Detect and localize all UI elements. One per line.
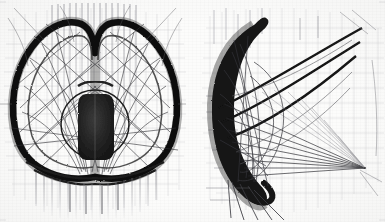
drawing-canvas bbox=[0, 0, 385, 222]
core-block bbox=[78, 94, 114, 160]
right-vanishing-point-marker bbox=[364, 167, 366, 169]
drawing-sheet bbox=[0, 0, 385, 222]
